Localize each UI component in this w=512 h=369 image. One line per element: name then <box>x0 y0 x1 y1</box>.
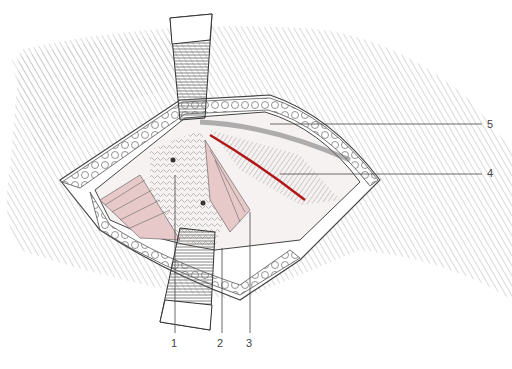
label-5: 5 <box>487 119 493 130</box>
label-3: 3 <box>246 338 252 349</box>
surgical-illustration <box>0 0 512 369</box>
label-4: 4 <box>487 168 493 179</box>
label-1: 1 <box>171 338 177 349</box>
label-2: 2 <box>217 338 223 349</box>
